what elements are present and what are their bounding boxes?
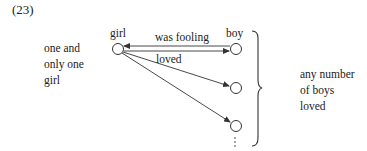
right-brace	[252, 31, 262, 146]
arrow-loved-2	[123, 52, 229, 86]
girl-node	[113, 44, 124, 55]
ellipsis-dot	[234, 145, 236, 147]
boy-node-3	[231, 121, 242, 132]
ellipsis-dot	[234, 141, 236, 143]
boy-node-2	[231, 83, 242, 94]
diagram-graphics	[0, 0, 367, 151]
ellipsis-dot	[234, 137, 236, 139]
boy-node-1	[231, 44, 242, 55]
arrow-loved-3	[122, 53, 230, 122]
